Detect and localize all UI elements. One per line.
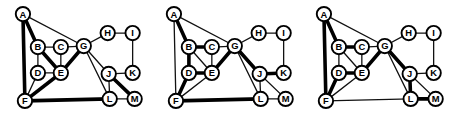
- node-A: A: [317, 7, 331, 21]
- node-J: J: [252, 67, 266, 81]
- node-circle-E: [204, 66, 218, 80]
- node-K: K: [427, 66, 441, 80]
- thin-edge-group: [324, 14, 436, 101]
- node-circle-J: [102, 67, 116, 81]
- thick-edge-group: [23, 14, 135, 101]
- edge-A-F: [174, 14, 176, 101]
- node-circle-G: [378, 39, 392, 53]
- node-D: D: [332, 66, 346, 80]
- thick-edge-group: [174, 14, 284, 101]
- node-A: A: [16, 7, 30, 21]
- node-circle-B: [31, 40, 45, 54]
- node-circle-D: [31, 66, 45, 80]
- node-circle-J: [252, 67, 266, 81]
- graph-canvas: ABCDEFGHIJKLM: [0, 0, 151, 115]
- node-circle-G: [77, 39, 91, 53]
- node-B: B: [31, 40, 45, 54]
- node-circle-D: [332, 66, 346, 80]
- node-K: K: [125, 66, 139, 80]
- node-C: C: [204, 40, 218, 54]
- node-circle-M: [127, 92, 141, 106]
- node-circle-H: [402, 26, 416, 40]
- node-M: M: [127, 92, 141, 106]
- node-circle-G: [227, 39, 241, 53]
- node-circle-E: [54, 66, 68, 80]
- node-G: G: [77, 39, 91, 53]
- node-E: E: [355, 66, 369, 80]
- node-circle-M: [429, 92, 443, 106]
- node-L: L: [253, 92, 267, 106]
- edge-F-L: [25, 99, 110, 101]
- node-circle-F: [168, 94, 182, 108]
- node-circle-M: [278, 92, 292, 106]
- node-circle-F: [18, 94, 32, 108]
- node-circle-C: [204, 40, 218, 54]
- node-M: M: [278, 92, 292, 106]
- graph-panel-2: ABCDEFGHIJKLM: [151, 0, 302, 115]
- thick-edge-group: [324, 14, 436, 101]
- node-B: B: [181, 40, 195, 54]
- node-circle-L: [253, 92, 267, 106]
- node-I: I: [276, 26, 290, 40]
- node-J: J: [403, 67, 417, 81]
- node-D: D: [181, 66, 195, 80]
- node-circle-J: [403, 67, 417, 81]
- node-circle-A: [166, 7, 180, 21]
- node-circle-F: [319, 94, 333, 108]
- node-circle-C: [54, 40, 68, 54]
- node-G: G: [378, 39, 392, 53]
- graph-canvas: ABCDEFGHIJKLM: [151, 0, 302, 115]
- graph-figure: ABCDEFGHIJKLMABCDEFGHIJKLMABCDEFGHIJKLM: [0, 0, 452, 115]
- node-F: F: [168, 94, 182, 108]
- node-circle-K: [276, 66, 290, 80]
- node-circle-A: [317, 7, 331, 21]
- node-F: F: [319, 94, 333, 108]
- node-circle-L: [404, 92, 418, 106]
- node-circle-K: [125, 66, 139, 80]
- node-F: F: [18, 94, 32, 108]
- node-C: C: [54, 40, 68, 54]
- node-circle-H: [101, 26, 115, 40]
- node-circle-K: [427, 66, 441, 80]
- node-L: L: [404, 92, 418, 106]
- node-J: J: [102, 67, 116, 81]
- node-circle-B: [332, 40, 346, 54]
- node-circle-B: [181, 40, 195, 54]
- node-G: G: [227, 39, 241, 53]
- edge-A-F: [23, 14, 25, 101]
- edge-A-F: [324, 14, 326, 101]
- node-circle-A: [16, 7, 30, 21]
- node-D: D: [31, 66, 45, 80]
- edge-F-L: [326, 99, 411, 101]
- node-K: K: [276, 66, 290, 80]
- node-I: I: [427, 26, 441, 40]
- node-circle-E: [355, 66, 369, 80]
- node-L: L: [103, 92, 117, 106]
- edge-F-L: [176, 99, 261, 101]
- node-H: H: [402, 26, 416, 40]
- node-H: H: [101, 26, 115, 40]
- node-B: B: [332, 40, 346, 54]
- node-C: C: [355, 40, 369, 54]
- node-circle-L: [103, 92, 117, 106]
- graph-panel-3: ABCDEFGHIJKLM: [301, 0, 452, 115]
- graph-panel-1: ABCDEFGHIJKLM: [0, 0, 151, 115]
- node-E: E: [54, 66, 68, 80]
- node-I: I: [125, 26, 139, 40]
- node-E: E: [204, 66, 218, 80]
- node-circle-H: [251, 26, 265, 40]
- node-circle-I: [125, 26, 139, 40]
- node-A: A: [166, 7, 180, 21]
- node-M: M: [429, 92, 443, 106]
- node-circle-D: [181, 66, 195, 80]
- node-H: H: [251, 26, 265, 40]
- graph-canvas: ABCDEFGHIJKLM: [301, 0, 452, 115]
- node-circle-I: [276, 26, 290, 40]
- node-circle-I: [427, 26, 441, 40]
- node-circle-C: [355, 40, 369, 54]
